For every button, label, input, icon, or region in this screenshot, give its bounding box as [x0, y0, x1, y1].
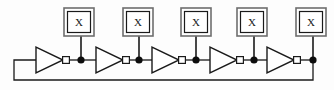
load-box-1-label: X	[75, 16, 83, 28]
load-box-3: X	[181, 8, 211, 36]
inverter-1-bubble-icon	[63, 57, 70, 64]
stage-2: X	[96, 8, 153, 73]
inverter-5	[267, 47, 294, 73]
load-box-3-label: X	[192, 16, 200, 28]
load-box-2: X	[123, 8, 153, 36]
load-box-4-label: X	[248, 16, 256, 28]
stage-5: X	[267, 8, 326, 73]
inverter-5-bubble-icon	[294, 57, 301, 64]
stage-1: X	[36, 8, 94, 73]
inverter-3	[152, 47, 179, 73]
load-box-5: X	[296, 8, 326, 36]
inverter-4	[210, 47, 237, 73]
stage-3: X	[152, 8, 211, 73]
ring-oscillator-diagram: X X X	[0, 0, 334, 90]
inverter-2-bubble-icon	[123, 57, 130, 64]
load-box-5-label: X	[307, 16, 315, 28]
load-box-1: X	[64, 8, 94, 36]
junction-dot-5	[309, 56, 316, 63]
junction-dot-3	[192, 56, 199, 63]
stage-4: X	[210, 8, 267, 73]
junction-dot-4	[250, 56, 257, 63]
circuit-schematic-svg: X X X	[0, 0, 334, 90]
inverter-3-bubble-icon	[179, 57, 186, 64]
inverter-2	[96, 47, 123, 73]
inverter-1	[36, 47, 63, 73]
load-box-4: X	[237, 8, 267, 36]
inverter-4-bubble-icon	[237, 57, 244, 64]
junction-dot-2	[135, 56, 142, 63]
junction-dot-1	[77, 56, 84, 63]
load-box-2-label: X	[134, 16, 142, 28]
